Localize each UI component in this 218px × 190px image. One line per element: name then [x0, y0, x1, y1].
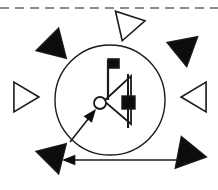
- small-circle-node: [94, 97, 106, 109]
- figure-container: [0, 0, 218, 190]
- flag-banner: [108, 59, 119, 68]
- diagram-canvas: [0, 0, 218, 190]
- solid-square-node: [122, 96, 135, 109]
